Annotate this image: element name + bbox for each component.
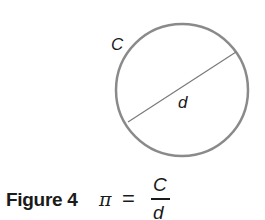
fraction-bar: [151, 198, 170, 200]
circumference-label: C: [111, 36, 123, 53]
fraction-denominator: d: [153, 203, 164, 220]
diameter-label: d: [178, 94, 187, 111]
pi-symbol: π: [99, 190, 112, 209]
figure-caption: Figure 4: [6, 190, 78, 209]
equals-sign: =: [122, 188, 135, 210]
fraction-numerator: C: [153, 175, 167, 194]
circle-circumference: [116, 24, 248, 156]
circle-figure: C d Figure 4 π = C d: [0, 0, 265, 220]
